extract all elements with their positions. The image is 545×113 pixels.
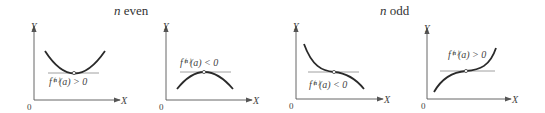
panel-n-even-maximum: Y X 0 f⁽ⁿ⁾(a) < 0 (159, 21, 260, 112)
curve (177, 72, 233, 89)
panel-n-odd-increasing: Y X 0 f⁽ⁿ⁾(a) > 0 (421, 23, 519, 111)
heading-n-odd: n odd (380, 3, 410, 18)
panel-n-even-minimum: Y X 0 f⁽ⁿ⁾(a) > 0 (27, 21, 128, 112)
condition-label: f⁽ⁿ⁾(a) > 0 (49, 76, 87, 88)
curve (45, 51, 105, 74)
y-axis-label: Y (31, 21, 38, 32)
x-axis-label: X (120, 95, 128, 106)
origin-label: 0 (27, 102, 32, 112)
condition-label: f⁽ⁿ⁾(a) < 0 (180, 57, 218, 69)
panel-n-odd-decreasing: Y X 0 f⁽ⁿ⁾(a) < 0 (289, 21, 391, 111)
origin-label: 0 (421, 101, 426, 111)
origin-label: 0 (289, 101, 294, 111)
x-axis-label: X (511, 94, 519, 105)
condition-label: f⁽ⁿ⁾(a) < 0 (309, 79, 347, 91)
condition-label: f⁽ⁿ⁾(a) > 0 (448, 49, 486, 61)
y-axis-label: Y (163, 21, 170, 32)
y-axis-label: Y (293, 21, 300, 32)
x-axis-label: X (383, 94, 391, 105)
y-axis-label: Y (424, 23, 431, 34)
point-a (202, 70, 205, 73)
taylor-extrema-diagram: n even n odd Y X 0 f⁽ⁿ⁾(a) > 0 Y X 0 f⁽ⁿ… (0, 0, 545, 113)
point-a (332, 70, 335, 73)
origin-label: 0 (159, 102, 164, 112)
heading-n-even: n even (114, 3, 149, 18)
point-a (72, 71, 75, 74)
x-axis-label: X (252, 95, 260, 106)
point-a (464, 69, 467, 72)
